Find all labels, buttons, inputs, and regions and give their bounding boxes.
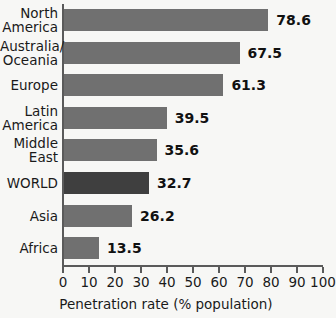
x-axis-tick: [218, 267, 220, 273]
bar: [64, 205, 132, 227]
bar-value-label: 61.3: [231, 77, 266, 93]
bar: [64, 42, 240, 64]
bar-row: Asia26.2: [0, 200, 332, 232]
bar: [64, 74, 223, 96]
x-axis-tick-label: 20: [106, 274, 123, 290]
x-axis-tick-label: 10: [80, 274, 97, 290]
x-axis-tick-label: 40: [158, 274, 175, 290]
bar-value-label: 67.5: [248, 45, 283, 61]
category-label: Europe: [0, 78, 58, 92]
category-label: WORLD: [0, 176, 58, 190]
x-axis-tick: [88, 267, 90, 273]
bar: [64, 172, 149, 194]
x-axis-tick-label: 30: [132, 274, 149, 290]
category-label: Asia: [0, 209, 58, 223]
x-axis-tick: [114, 267, 116, 273]
bar-row: Australia/ Oceania67.5: [0, 37, 332, 69]
bar-value-label: 78.6: [276, 12, 311, 28]
bar-rows: North America78.6Australia/ Oceania67.5E…: [0, 0, 332, 265]
bar-value-label: 13.5: [107, 240, 142, 256]
bar-row: Europe61.3: [0, 69, 332, 101]
x-axis-tick: [192, 267, 194, 273]
bar-value-label: 26.2: [140, 208, 175, 224]
bar: [64, 237, 99, 259]
x-axis-tick-label: 50: [184, 274, 201, 290]
x-axis-tick: [62, 267, 64, 273]
bar-row: Middle East35.6: [0, 134, 332, 166]
x-axis-tick-label: 80: [262, 274, 279, 290]
x-axis-tick: [166, 267, 168, 273]
x-axis-tick-label: 70: [236, 274, 253, 290]
x-axis-tick: [322, 267, 324, 273]
bar-value-label: 32.7: [157, 175, 192, 191]
x-axis-tick: [244, 267, 246, 273]
x-axis-tick: [296, 267, 298, 273]
x-axis-title: Penetration rate (% population): [0, 296, 332, 312]
x-axis-tick-labels: 0102030405060708090100: [0, 274, 332, 292]
category-label: Middle East: [0, 136, 58, 164]
plot-area: North America78.6Australia/ Oceania67.5E…: [0, 0, 332, 270]
bar-value-label: 35.6: [165, 142, 200, 158]
x-axis-tick: [270, 267, 272, 273]
bar: [64, 139, 157, 161]
bar-row: Africa13.5: [0, 232, 332, 264]
x-axis-tick: [140, 267, 142, 273]
x-axis-tick-label: 100: [310, 274, 336, 290]
x-axis-tick-label: 60: [210, 274, 227, 290]
category-label: Africa: [0, 241, 58, 255]
x-axis-tick-label: 90: [288, 274, 305, 290]
bar-row: WORLD32.7: [0, 167, 332, 199]
category-label: Latin America: [0, 104, 58, 132]
bar-row: Latin America39.5: [0, 102, 332, 134]
bar: [64, 107, 167, 129]
bar-row: North America78.6: [0, 4, 332, 36]
category-label: North America: [0, 6, 58, 34]
bar: [64, 9, 268, 31]
bar-value-label: 39.5: [175, 110, 210, 126]
category-label: Australia/ Oceania: [0, 39, 58, 67]
x-axis-tick-label: 0: [59, 274, 68, 290]
